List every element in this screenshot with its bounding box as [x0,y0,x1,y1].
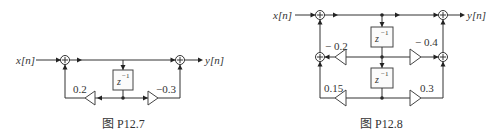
figure-p12-7: x[n] z −1 0.2 [15,54,224,131]
output-label: y[n] [466,9,486,21]
gain-label: − 0.4 [415,36,438,48]
gain-triangle-neg0.4 [410,49,421,65]
gain-label: 0.15 [324,82,344,94]
input-label: x[n] [15,54,35,66]
arrow-icon [380,63,385,68]
delay-block-2: z −1 [371,68,393,88]
arrow-icon [318,62,323,67]
adder-top-left [316,11,325,20]
arrow-icon [395,13,400,18]
input-label: x[n] [272,9,292,21]
figure-caption: 图 P12.7 [102,117,145,131]
arrow-icon [198,58,203,63]
arrow-icon [77,58,82,63]
arrow-icon [311,13,316,18]
arrow-icon [441,20,446,25]
arrow-icon [171,58,176,63]
adder-mid-right [439,53,448,62]
arrow-icon [97,96,102,101]
output-label: y[n] [204,54,224,66]
arrow-icon [63,65,68,70]
svg-text:z: z [374,74,379,85]
adder-1 [61,56,70,65]
adder-top-right [439,11,448,20]
delay-block: z −1 [113,70,133,90]
adder-2 [176,56,185,65]
gain-label: 0.3 [420,82,434,94]
arrow-icon [325,55,330,60]
arrow-icon [441,62,446,67]
svg-text:z: z [374,33,379,44]
arrow-icon [121,65,126,70]
gain-label: −0.3 [156,83,176,95]
svg-text:−1: −1 [122,72,130,80]
arrow-icon [380,22,385,27]
gain-label: 0.2 [73,83,87,95]
arrow-icon [434,55,439,60]
gain-label: − 0.2 [325,40,348,52]
arrow-icon [460,13,465,18]
svg-text:−1: −1 [381,29,389,37]
delay-block-1: z −1 [371,27,393,47]
figure-caption: 图 P12.8 [360,117,403,131]
svg-text:−1: −1 [381,70,389,78]
arrow-icon [318,20,323,25]
adder-mid-left [316,53,325,62]
arrow-icon [333,13,338,18]
arrow-icon [143,96,148,101]
arrow-icon [434,13,439,18]
svg-text:z: z [116,76,121,87]
diagram-canvas: x[n] z −1 0.2 [0,0,498,138]
arrow-icon [178,65,183,70]
figure-p12-8: x[n] z −1 − 0.2 [272,9,486,131]
